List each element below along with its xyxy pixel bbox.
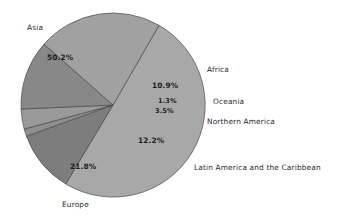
pie-chart-svg <box>0 0 354 219</box>
slice-value-europe: 21.8% <box>70 163 96 170</box>
slice-value-oceania: 1.3% <box>158 98 177 105</box>
slice-value-northern-america: 3.5% <box>155 108 174 115</box>
slice-label-asia: Asia <box>27 24 43 31</box>
slice-label-latin-america-and-the-caribbean: Latin America and the Caribbean <box>194 164 321 171</box>
slice-value-africa: 10.9% <box>152 82 178 89</box>
slice-value-asia: 50.2% <box>47 54 73 61</box>
slice-value-latin-america-and-the-caribbean: 12.2% <box>138 137 164 144</box>
slice-label-oceania: Oceania <box>213 98 244 105</box>
pie-chart-figure: Asia50.2%Africa10.9%Oceania1.3%Northern … <box>0 0 354 219</box>
slice-label-northern-america: Northern America <box>207 118 275 125</box>
slice-label-africa: Africa <box>207 66 229 73</box>
slice-label-europe: Europe <box>62 201 89 208</box>
